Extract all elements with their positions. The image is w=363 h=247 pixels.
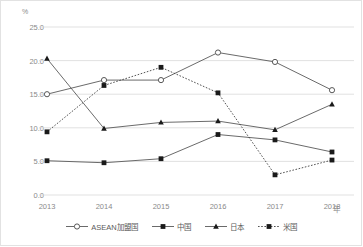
- data-point-open-circle-icon: [215, 50, 220, 55]
- series-layer: [44, 50, 335, 177]
- data-point-square-icon: [330, 150, 335, 155]
- data-point-square-icon: [102, 160, 107, 165]
- legend-item-中国[interactable]: 中国: [152, 221, 191, 232]
- data-point-square-icon: [102, 83, 107, 88]
- legend-key-icon: [66, 222, 88, 231]
- legend-label: ASEAN加盟国: [91, 221, 137, 232]
- data-point-square-icon: [45, 158, 50, 163]
- legend-key-icon: [205, 222, 227, 231]
- legend-item-ASEAN加盟国[interactable]: ASEAN加盟国: [66, 221, 137, 232]
- data-point-square-icon: [159, 156, 164, 161]
- data-point-square-icon: [159, 65, 164, 70]
- data-point-square-icon: [273, 137, 278, 142]
- legend-item-日本[interactable]: 日本: [205, 221, 244, 232]
- legend-label: 中国: [177, 221, 191, 232]
- series-中国: [45, 132, 335, 165]
- legend-label: 米国: [283, 221, 297, 232]
- data-point-square-icon: [216, 90, 221, 95]
- legend-label: 日本: [230, 221, 244, 232]
- data-point-square-icon: [45, 129, 50, 134]
- legend-item-米国[interactable]: 米国: [258, 221, 297, 232]
- legend-key-icon: [152, 222, 174, 231]
- chart-legend: ASEAN加盟国中国日本米国: [0, 221, 363, 232]
- data-point-open-circle-icon: [329, 88, 334, 93]
- data-point-square-icon: [160, 224, 165, 229]
- data-point-square-icon: [273, 172, 278, 177]
- data-point-square-icon: [266, 224, 271, 229]
- data-point-open-circle-icon: [101, 77, 106, 82]
- legend-key-icon: [258, 222, 280, 231]
- data-point-open-circle-icon: [158, 77, 163, 82]
- data-point-open-circle-icon: [272, 59, 277, 64]
- chart-container: % 年 0.05.010.015.020.025.0 2013201420152…: [0, 0, 363, 247]
- series-ASEAN加盟国: [44, 50, 334, 97]
- gridlines: [39, 27, 354, 195]
- data-point-open-circle-icon: [75, 224, 80, 229]
- data-point-triangle-icon: [329, 101, 335, 106]
- data-point-triangle-icon: [44, 56, 50, 61]
- data-point-open-circle-icon: [44, 92, 49, 97]
- data-point-square-icon: [216, 132, 221, 137]
- series-line: [47, 135, 332, 163]
- series-line: [47, 53, 332, 95]
- plot-area: [0, 0, 363, 247]
- series-米国: [45, 65, 335, 177]
- data-point-square-icon: [330, 158, 335, 163]
